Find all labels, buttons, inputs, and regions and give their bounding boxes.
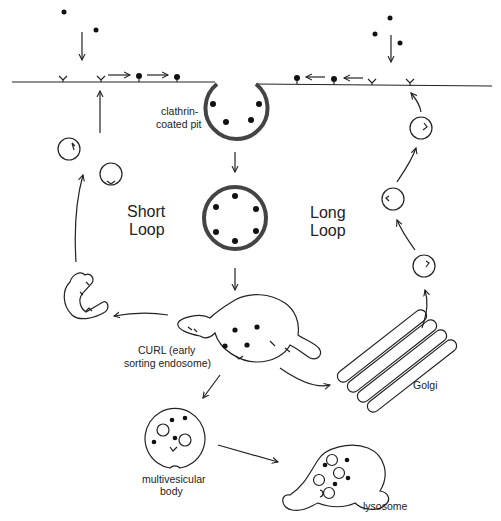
ligand-arrows — [82, 32, 391, 62]
curl-label-1: CURL (early — [138, 344, 196, 356]
lysosome-label: lysosome — [363, 500, 408, 512]
arrow-curl-to-golgi — [280, 368, 330, 386]
short-loop-vesicle-2 — [100, 163, 122, 185]
curl-label-2: sorting endosome) — [124, 357, 211, 369]
golgi-stack — [335, 307, 459, 414]
arrow-tubule-up — [75, 175, 83, 262]
long-loop-label-1: Long — [310, 204, 346, 221]
clathrin-coated-pit — [205, 84, 267, 139]
pit-label-2: coated pit — [156, 118, 202, 130]
arrow-to-membrane-right — [411, 93, 421, 112]
recycling-tubule — [64, 273, 108, 319]
arrow-vesicle2-up — [397, 148, 416, 182]
short-loop-label-1: Short — [127, 203, 166, 220]
long-loop-vesicle-3 — [410, 117, 432, 139]
curl-endosome — [178, 295, 321, 362]
endocytosis-diagram: clathrin- coated pit Short Loop Long Loo… — [0, 0, 501, 521]
coated-vesicle — [204, 187, 266, 249]
short-loop-vesicle-1 — [58, 138, 80, 160]
mvb-label-1: multivesicular — [142, 473, 206, 485]
short-loop-label-2: Loop — [129, 221, 165, 238]
arrow-vesicle1-up — [397, 220, 415, 250]
long-loop-label-2: Loop — [310, 222, 346, 239]
mvb-label-2: body — [160, 485, 184, 497]
plasma-membrane — [12, 82, 492, 86]
long-loop-vesicle-2 — [382, 188, 404, 210]
ligand-dots — [62, 10, 403, 46]
arrow-curl-to-mvb — [203, 375, 220, 398]
arrow-mvb-to-lysosome — [218, 445, 278, 462]
pit-label-1: clathrin- — [161, 105, 199, 117]
receptors-left — [59, 73, 180, 82]
long-loop-vesicle-1 — [413, 255, 435, 277]
golgi-label: Golgi — [413, 379, 438, 391]
multivesicular-body — [145, 408, 205, 468]
arrow-curl-to-tubule — [114, 313, 168, 316]
